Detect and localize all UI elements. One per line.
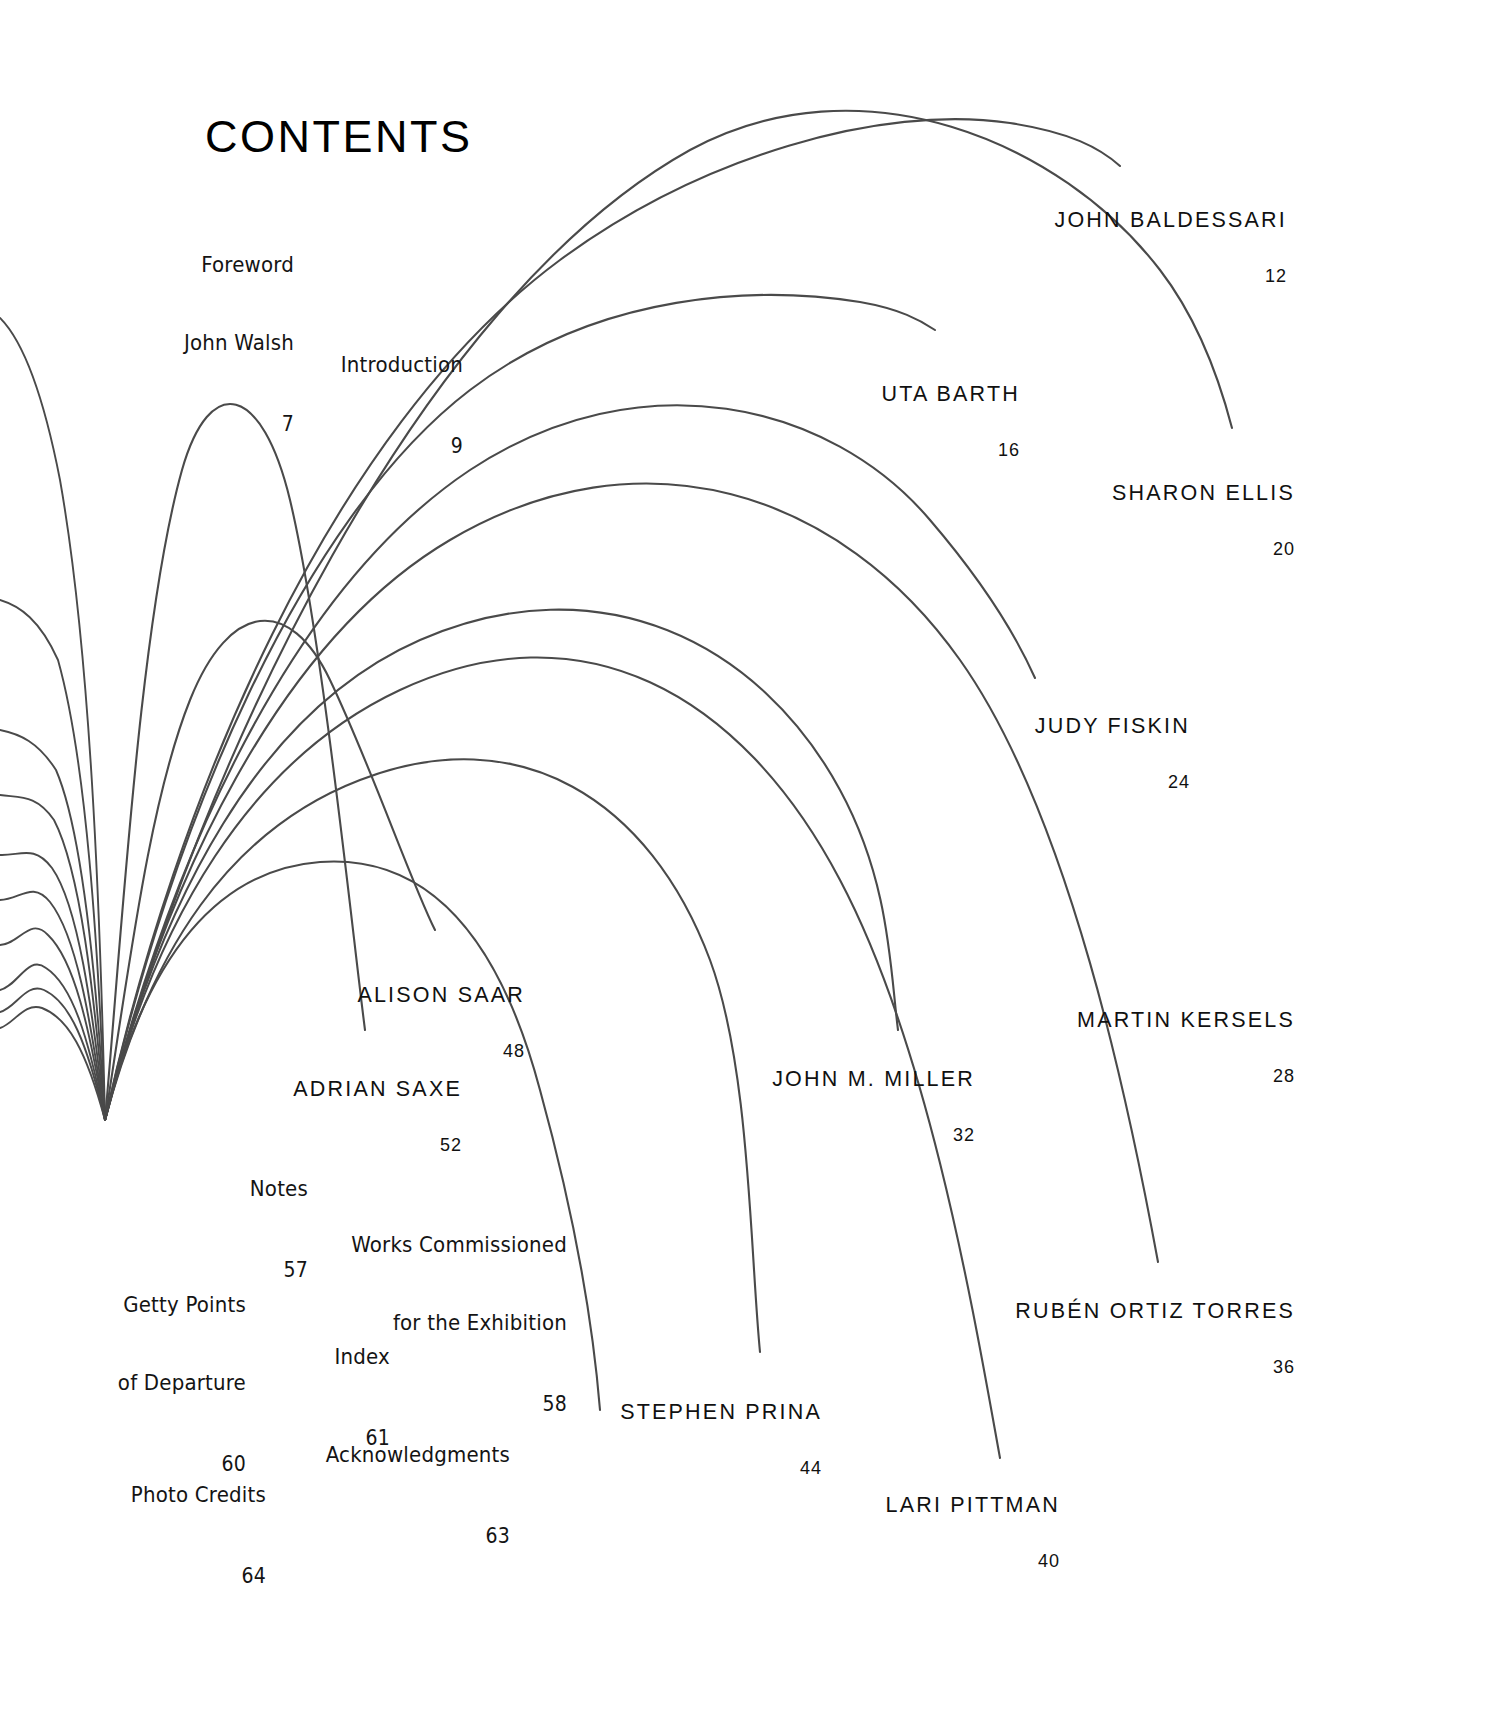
toc-page-number: 44	[562, 1458, 822, 1479]
toc-page-number: 24	[950, 772, 1190, 793]
toc-page-number: 28	[1000, 1066, 1295, 1087]
label-layer: CONTENTS Foreword John Walsh 7 Introduct…	[0, 0, 1497, 1718]
artist-name: JOHN BALDESSARI	[1054, 208, 1287, 232]
artist-name: UTA BARTH	[882, 382, 1020, 406]
toc-entry-judy-fiskin[interactable]: JUDY FISKIN 24	[950, 689, 1190, 844]
toc-page-number: 20	[1035, 539, 1295, 560]
toc-page-number: 9	[180, 434, 463, 459]
artist-name: MARTIN KERSELS	[1077, 1008, 1295, 1032]
toc-page-number: 40	[810, 1551, 1060, 1572]
toc-entry-uta-barth[interactable]: UTA BARTH 16	[760, 357, 1020, 512]
toc-entry-line: Index	[250, 1344, 390, 1370]
toc-page-number: 12	[987, 266, 1287, 287]
toc-entry-line: Notes	[128, 1176, 308, 1202]
toc-entry-sharon-ellis[interactable]: SHARON ELLIS 20	[1035, 456, 1295, 611]
toc-entry-line: Photo Credits	[96, 1482, 266, 1508]
artist-name: ADRIAN SAXE	[293, 1077, 462, 1101]
toc-entry-martin-kersels[interactable]: MARTIN KERSELS 28	[1000, 983, 1295, 1138]
artist-name: LARI PITTMAN	[885, 1493, 1060, 1517]
toc-page-number: 64	[96, 1564, 266, 1589]
artist-name: SHARON ELLIS	[1112, 481, 1295, 505]
contents-page: CONTENTS Foreword John Walsh 7 Introduct…	[0, 0, 1497, 1718]
page-title: CONTENTS	[205, 110, 473, 163]
toc-entry-line: Introduction	[180, 352, 463, 378]
artist-name: STEPHEN PRINA	[620, 1400, 822, 1424]
toc-entry-line: Foreword	[0, 252, 294, 278]
artist-name: JOHN M. MILLER	[772, 1067, 975, 1091]
toc-entry-stephen-prina[interactable]: STEPHEN PRINA 44	[562, 1375, 822, 1530]
toc-entry-introduction[interactable]: Introduction 9	[180, 300, 463, 510]
toc-entry-john-m-miller[interactable]: JOHN M. MILLER 32	[690, 1042, 975, 1197]
toc-entry-line: Getty Points	[66, 1292, 246, 1318]
toc-page-number: 16	[760, 440, 1020, 461]
toc-entry-line: Acknowledgments	[300, 1442, 510, 1468]
toc-entry-acknowledgments[interactable]: Acknowledgments 63	[300, 1390, 510, 1600]
toc-entry-ruben-ortiz-torres[interactable]: RUBÉN ORTIZ TORRES 36	[955, 1274, 1295, 1429]
toc-entry-john-baldessari[interactable]: JOHN BALDESSARI 12	[987, 183, 1287, 338]
artist-name: ALISON SAAR	[357, 983, 525, 1007]
toc-page-number: 32	[690, 1125, 975, 1146]
artist-name: JUDY FISKIN	[1035, 714, 1190, 738]
toc-entry-line: Works Commissioned	[327, 1232, 567, 1258]
toc-entry-lari-pittman[interactable]: LARI PITTMAN 40	[810, 1468, 1060, 1623]
toc-entry-line: of Departure	[66, 1370, 246, 1396]
toc-page-number: 36	[955, 1357, 1295, 1378]
artist-name: RUBÉN ORTIZ TORRES	[1015, 1299, 1295, 1323]
toc-entry-photo-credits[interactable]: Photo Credits 64	[96, 1430, 266, 1640]
toc-page-number: 63	[300, 1524, 510, 1549]
